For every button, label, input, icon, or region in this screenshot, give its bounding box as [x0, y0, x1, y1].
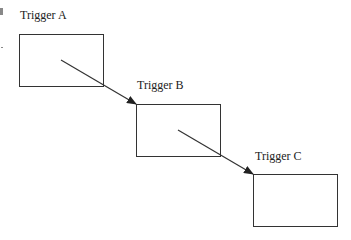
edges-layer	[0, 0, 351, 240]
edge-b-to-c	[178, 130, 253, 174]
edge-a-to-b	[61, 60, 136, 104]
